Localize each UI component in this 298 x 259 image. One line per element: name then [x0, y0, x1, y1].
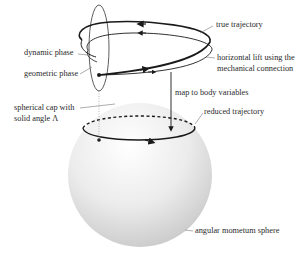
label-geometric-phase: geometric phase: [24, 69, 78, 79]
leader-dynamic: [78, 54, 88, 55]
leader-true: [200, 26, 213, 33]
diagram-canvas: [0, 0, 298, 259]
label-true-trajectory: true trajectory: [216, 20, 263, 30]
leader-sphere: [185, 230, 193, 231]
label-map-to-body: map to body variables: [175, 88, 249, 98]
leader-lift: [206, 57, 215, 58]
label-dynamic-phase: dynamic phase: [24, 48, 74, 58]
label-spherical-cap-2: solid angle Λ: [14, 114, 58, 124]
label-horizontal-lift-1: horizontal lift using the: [217, 53, 295, 63]
leader-reduced: [195, 113, 203, 124]
label-angular-momentum-sphere: angular mometum sphere: [195, 226, 279, 236]
fiber-ellipse: [89, 5, 109, 91]
leader-cap: [80, 104, 115, 108]
label-horizontal-lift-2: mechanical connection: [217, 64, 293, 74]
true-trajectory: [79, 22, 210, 75]
start-point-dot: [97, 73, 101, 77]
label-reduced-trajectory: reduced trajectory: [204, 107, 264, 117]
angular-momentum-sphere: [68, 103, 212, 247]
label-spherical-cap-1: spherical cap with: [14, 103, 74, 113]
